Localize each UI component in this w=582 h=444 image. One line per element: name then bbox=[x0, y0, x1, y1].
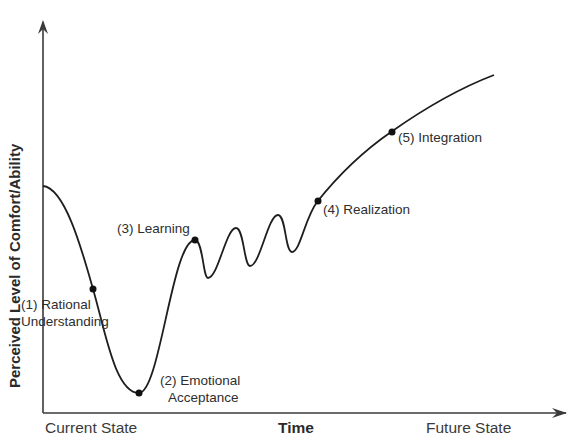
change-curve bbox=[43, 75, 494, 393]
x-axis-left-label: Current State bbox=[45, 419, 137, 437]
stage-1-line2: Understanding bbox=[21, 313, 109, 330]
x-axis-right-label: Future State bbox=[426, 419, 511, 437]
stage-4-label: (4) Realization bbox=[323, 201, 410, 218]
y-axis-label: Perceived Level of Comfort/Ability bbox=[6, 144, 23, 388]
stage-5-point bbox=[389, 129, 396, 136]
stage-1-line1: (1) Rational bbox=[21, 296, 109, 313]
stage-1-label: (1) Rational Understanding bbox=[21, 296, 109, 330]
stage-4-point bbox=[315, 198, 322, 205]
stage-3-point bbox=[192, 237, 199, 244]
stage-3-line1: (3) Learning bbox=[117, 220, 190, 237]
stage-2-point bbox=[136, 390, 143, 397]
stage-1-point bbox=[90, 286, 97, 293]
change-curve-diagram bbox=[0, 0, 582, 444]
stage-5-line1: (5) Integration bbox=[398, 129, 482, 146]
stage-4-line1: (4) Realization bbox=[323, 201, 410, 218]
stage-2-line2: Acceptance bbox=[160, 389, 240, 406]
stage-2-label: (2) Emotional Acceptance bbox=[160, 372, 240, 406]
x-axis-center-label: Time bbox=[278, 419, 314, 437]
stage-2-line1: (2) Emotional bbox=[160, 372, 240, 389]
stage-5-label: (5) Integration bbox=[398, 129, 482, 146]
stage-3-label: (3) Learning bbox=[117, 220, 190, 237]
